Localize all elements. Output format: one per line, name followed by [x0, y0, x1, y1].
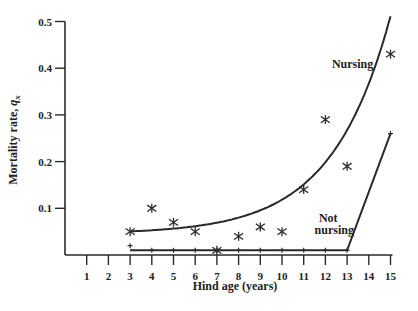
x-tick-label: 2 [106, 270, 112, 282]
not-nursing-point [128, 243, 133, 248]
y-axis-title-sub: x [12, 95, 22, 101]
series-annotation: Nursing [332, 57, 373, 71]
not-nursing-point [236, 248, 241, 253]
x-tick-label: 5 [171, 270, 177, 282]
y-axis-title-main: Mortality rate, [6, 106, 20, 185]
y-axis-title: Mortality rate, qx [6, 95, 22, 185]
not-nursing-point [193, 248, 198, 253]
y-tick-label: 0.5 [38, 16, 52, 28]
not-nursing-point [280, 248, 285, 253]
nursing-point [191, 227, 200, 236]
x-tick-label: 12 [320, 270, 332, 282]
y-tick-label: 0.1 [38, 202, 52, 214]
x-tick-label: 13 [342, 270, 354, 282]
nursing-point [278, 227, 287, 236]
not-nursing-point [171, 248, 176, 253]
nursing-point [256, 222, 265, 231]
not-nursing-point [301, 248, 306, 253]
data-points [126, 50, 395, 255]
series-annotation: nursing [315, 223, 354, 237]
axes: 0.10.20.30.40.5123456789101112131415 [38, 16, 396, 283]
nursing-point [234, 232, 243, 241]
annotations: NursingNotnursing [315, 57, 374, 237]
fit-lines [130, 16, 390, 250]
x-tick-label: 1 [84, 270, 90, 282]
y-tick-label: 0.3 [38, 109, 52, 121]
x-tick-label: 15 [385, 270, 397, 282]
not-nursing-point [323, 248, 328, 253]
x-tick-label: 3 [127, 270, 133, 282]
not-nursing-point [149, 248, 154, 253]
not-nursing-point [345, 248, 350, 253]
nursing-fit-curve [130, 16, 390, 231]
y-tick-label: 0.2 [38, 156, 52, 168]
x-tick-label: 14 [363, 270, 375, 282]
x-tick-label: 4 [149, 270, 155, 282]
y-tick-label: 0.4 [38, 62, 52, 74]
x-tick-label: 11 [298, 270, 308, 282]
nursing-point [321, 115, 330, 124]
nursing-point [147, 204, 156, 213]
not-nursing-point [388, 131, 393, 136]
nursing-point [169, 218, 178, 227]
nursing-point [386, 50, 395, 59]
x-tick-label: 10 [277, 270, 289, 282]
mortality-chart: 0.10.20.30.40.5123456789101112131415 Nur… [0, 0, 418, 311]
not-nursing-point [258, 248, 263, 253]
nursing-point [343, 162, 352, 171]
x-axis-title: Hind age (years) [193, 279, 278, 293]
